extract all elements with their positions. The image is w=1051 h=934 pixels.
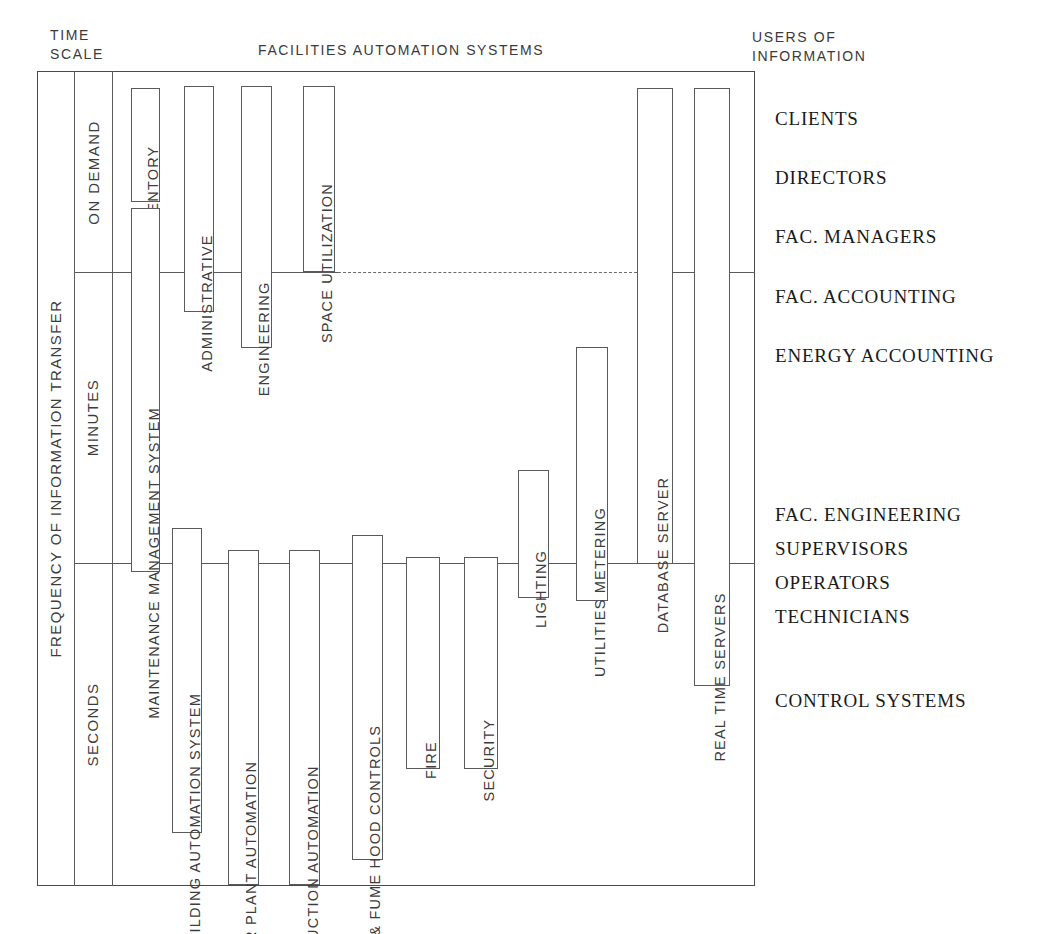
user-item-clients: CLIENTS xyxy=(775,108,859,130)
user-item-fac-engineering: FAC. ENGINEERING xyxy=(775,504,962,526)
system-box-administrative[interactable]: ADMINISTRATIVE xyxy=(184,86,214,312)
system-box-space-utilization[interactable]: SPACE UTILIZATION xyxy=(303,86,335,272)
system-box-database-server[interactable]: DATABASE SERVER xyxy=(637,88,673,564)
user-item-operators: OPERATORS xyxy=(775,572,891,594)
band-divider-on-demand-minutes-dashed xyxy=(338,272,637,273)
axis-band-column-rule xyxy=(112,71,113,886)
users-of-information-heading-line2: INFORMATION xyxy=(752,47,867,66)
system-box-building-automation-system[interactable]: BUILDING AUTOMATION SYSTEM xyxy=(172,528,202,833)
user-item-directors: DIRECTORS xyxy=(775,167,887,189)
diagram-canvas: TIME SCALE FACILITIES AUTOMATION SYSTEMS… xyxy=(0,0,1051,934)
system-box-power-plant-automation[interactable]: POWER PLANT AUTOMATION xyxy=(228,550,259,885)
system-box-inventory[interactable]: INVENTORY xyxy=(131,88,160,202)
time-scale-heading-line2: SCALE xyxy=(50,45,104,64)
system-box-production-automation[interactable]: PRODUCTION AUTOMATION xyxy=(289,550,320,885)
user-item-control-systems: CONTROL SYSTEMS xyxy=(775,690,966,712)
system-box-engineering[interactable]: ENGINEERING xyxy=(241,86,272,348)
system-box-utilities-metering[interactable]: UTILITIES METERING xyxy=(576,347,608,601)
user-item-technicians: TECHNICIANS xyxy=(775,606,910,628)
y-axis-band-seconds: SECONDS xyxy=(74,563,112,885)
system-box-maintenance-management-system[interactable]: MAINTENANCE MANAGEMENT SYSTEM xyxy=(131,208,160,572)
system-box-security[interactable]: SECURITY xyxy=(464,557,498,769)
time-scale-heading-line1: TIME xyxy=(50,26,90,45)
y-axis-band-minutes: MINUTES xyxy=(74,272,112,563)
user-item-supervisors: SUPERVISORS xyxy=(775,538,909,560)
user-item-fac-managers: FAC. MANAGERS xyxy=(775,226,937,248)
system-box-fire[interactable]: FIRE xyxy=(406,557,440,769)
user-item-fac-accounting: FAC. ACCOUNTING xyxy=(775,286,957,308)
user-item-energy-accounting: ENERGY ACCOUNTING xyxy=(775,345,994,367)
y-axis-title: FREQUENCY OF INFORMATION TRANSFER xyxy=(37,71,74,886)
system-box-lighting[interactable]: LIGHTING xyxy=(518,470,549,598)
y-axis-band-on-demand: ON DEMAND xyxy=(74,72,112,272)
users-of-information-heading-line1: USERS OF xyxy=(752,28,836,47)
system-box-real-time-servers[interactable]: REAL TIME SERVERS xyxy=(694,88,730,686)
system-box-lab-fume-hood-controls[interactable]: LAB. & FUME HOOD CONTROLS xyxy=(352,535,383,860)
facilities-automation-systems-heading: FACILITIES AUTOMATION SYSTEMS xyxy=(258,41,544,60)
